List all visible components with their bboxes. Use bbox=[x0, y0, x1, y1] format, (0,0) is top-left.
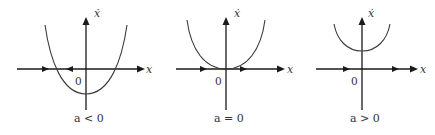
panel-caption: a < 0 bbox=[74, 112, 104, 125]
flow-arrow-right-icon bbox=[392, 66, 399, 72]
x-axis-label: x bbox=[146, 63, 153, 76]
panel-a-positive: ẋ x 0 a > 0 bbox=[316, 7, 427, 125]
x-axis-arrowhead-icon bbox=[277, 66, 285, 73]
panel-a-zero: ẋ x 0 a = 0 bbox=[176, 7, 294, 125]
y-axis-label: ẋ bbox=[94, 7, 101, 20]
y-axis-arrowhead-icon bbox=[359, 17, 366, 25]
panel-caption: a > 0 bbox=[350, 112, 380, 125]
flow-arrow-right-icon bbox=[240, 66, 247, 72]
flow-arrow-right-icon bbox=[42, 66, 49, 72]
x-axis-arrowhead-icon bbox=[137, 66, 145, 73]
panel-a-negative: ẋ x 0 a < 0 bbox=[17, 7, 153, 125]
x-axis-label: x bbox=[420, 63, 427, 76]
x-axis-label: x bbox=[287, 63, 294, 76]
y-axis-arrowhead-icon bbox=[83, 17, 90, 25]
origin-label: 0 bbox=[215, 75, 222, 87]
bifurcation-figure: ẋ x 0 a < 0 ẋ x 0 a = 0 ẋ x 0 a > 0 bbox=[0, 0, 435, 135]
y-axis-label: ẋ bbox=[234, 7, 241, 20]
y-axis-arrowhead-icon bbox=[223, 17, 230, 25]
y-axis-label: ẋ bbox=[368, 7, 375, 20]
panel-caption: a = 0 bbox=[214, 112, 244, 125]
flow-arrow-right-icon bbox=[343, 66, 350, 72]
flow-arrow-left-icon bbox=[66, 66, 73, 72]
origin-label: 0 bbox=[75, 75, 82, 87]
origin-label: 0 bbox=[351, 75, 358, 87]
x-axis-arrowhead-icon bbox=[410, 66, 418, 73]
flow-arrow-right-icon bbox=[200, 66, 207, 72]
